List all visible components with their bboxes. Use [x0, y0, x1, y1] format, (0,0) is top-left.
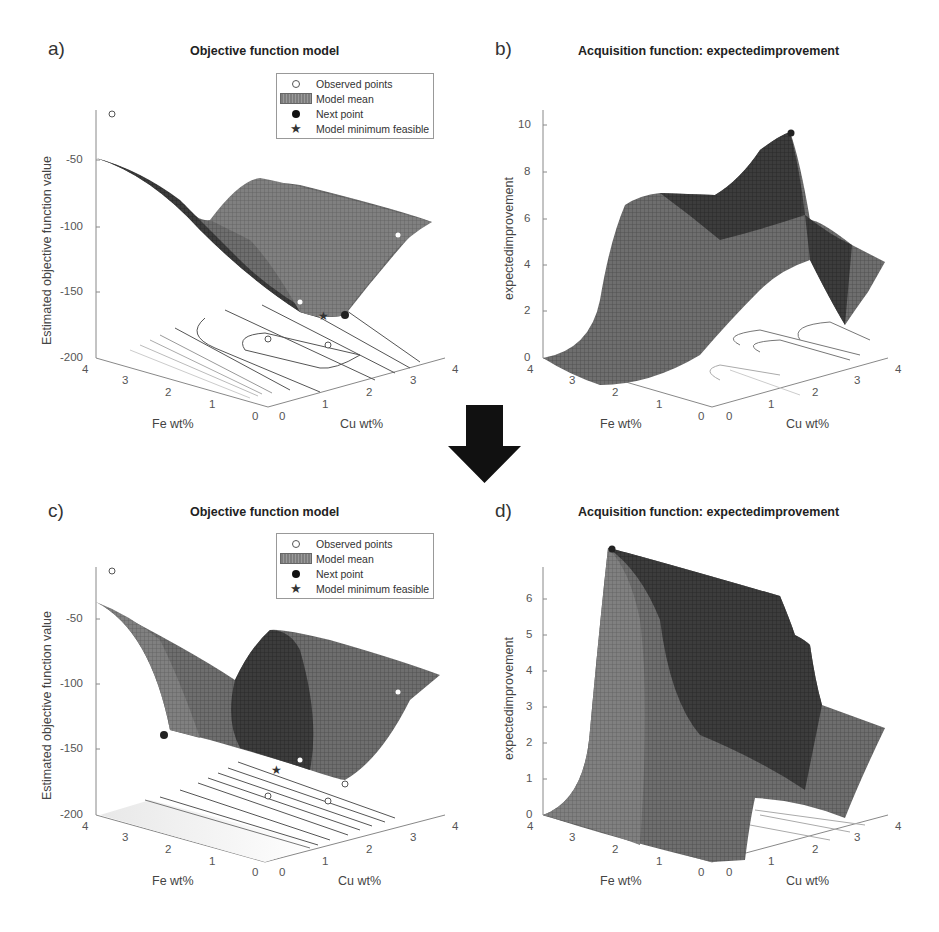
legend-item-model-minimum: Model minimum feasible: [316, 123, 429, 135]
z-tick: 8: [524, 165, 530, 177]
fe-tick: 0: [252, 410, 258, 422]
fe-tick: 2: [165, 843, 171, 855]
z-tick: -100: [60, 220, 83, 232]
z-tick: 6: [524, 212, 530, 224]
z-tick: 0: [524, 351, 530, 363]
cu-tick: 3: [854, 831, 860, 843]
panel-b-surface: [543, 130, 885, 386]
z-tick: 5: [526, 628, 532, 640]
z-tick: 0: [526, 808, 532, 820]
legend-item-observed: Observed points: [316, 538, 392, 550]
fe-tick: 2: [165, 386, 171, 398]
cu-tick: 4: [452, 363, 458, 375]
panel-a-label: a): [48, 38, 65, 60]
panel-b-title: Acquisition function: expectedimprovemen…: [578, 44, 839, 58]
next-point-icon: [292, 110, 300, 118]
panel-d-contours: [750, 810, 865, 840]
fe-axis-label: Fe wt%: [600, 874, 642, 888]
legend-item-model-mean: Model mean: [316, 553, 374, 565]
z-tick: 10: [518, 118, 531, 130]
svg-text:★: ★: [318, 309, 329, 323]
fe-tick: 1: [656, 855, 662, 867]
cu-tick: 4: [452, 820, 458, 832]
fe-tick: 2: [612, 843, 618, 855]
star-icon: ★: [290, 124, 302, 134]
fe-tick: 0: [698, 866, 704, 878]
panel-c-contours: [100, 762, 395, 862]
cu-tick: 2: [812, 843, 818, 855]
fe-axis-label: Fe wt%: [600, 417, 642, 431]
panel-a-title: Objective function model: [190, 44, 339, 58]
model-mean-swatch-icon: [280, 553, 312, 564]
cu-tick: 4: [895, 363, 901, 375]
z-tick: -50: [66, 153, 83, 165]
z-axis-label: Estimated objective function value: [40, 611, 54, 800]
legend-item-next-point: Next point: [316, 108, 363, 120]
z-tick: -50: [66, 612, 83, 624]
next-point-icon: [292, 570, 300, 578]
legend-item-observed: Observed points: [316, 78, 392, 90]
z-tick: 1: [526, 772, 532, 784]
fe-axis-label: Fe wt%: [152, 417, 194, 431]
cu-axis-label: Cu wt%: [340, 417, 383, 431]
z-tick: 3: [526, 700, 532, 712]
z-tick: -150: [60, 742, 83, 754]
cu-axis-label: Cu wt%: [338, 874, 381, 888]
cu-tick: 3: [854, 374, 860, 386]
z-axis-label: expectedimprovement: [502, 177, 516, 300]
cu-axis-label: Cu wt%: [786, 874, 829, 888]
legend-item-model-mean: Model mean: [316, 93, 374, 105]
fe-tick: 3: [569, 374, 575, 386]
cu-tick: 0: [279, 866, 285, 878]
fe-tick: 3: [122, 374, 128, 386]
cu-tick: 3: [410, 374, 416, 386]
cu-tick: 1: [768, 398, 774, 410]
legend-panel-a: Observed points Model mean Next point ★M…: [276, 73, 434, 139]
fe-tick: 4: [82, 363, 88, 375]
cu-tick: 1: [322, 398, 328, 410]
fe-tick: 4: [527, 820, 533, 832]
panel-c-label: c): [48, 500, 64, 522]
cu-tick: 0: [726, 410, 732, 422]
z-tick: 6: [526, 592, 532, 604]
cu-tick: 2: [366, 843, 372, 855]
down-arrow-icon: [448, 405, 521, 483]
fe-tick: 0: [698, 410, 704, 422]
fe-tick: 4: [527, 363, 533, 375]
cu-tick: 2: [366, 386, 372, 398]
cu-tick: 3: [410, 831, 416, 843]
z-axis-label: Estimated objective function value: [40, 156, 54, 345]
panel-d-label: d): [495, 500, 512, 522]
figure-graphics: ★: [0, 0, 939, 932]
fe-axis-label: Fe wt%: [152, 874, 194, 888]
fe-tick: 3: [569, 831, 575, 843]
panel-d-surface: [543, 546, 885, 863]
cu-tick: 2: [812, 386, 818, 398]
panel-c-surface: [96, 602, 440, 780]
z-tick: 4: [526, 664, 532, 676]
z-tick: 2: [524, 304, 530, 316]
cu-tick: 1: [322, 855, 328, 867]
z-tick: 4: [524, 258, 530, 270]
cu-tick: 0: [279, 410, 285, 422]
observed-points-icon: [292, 80, 300, 88]
legend-item-next-point: Next point: [316, 568, 363, 580]
legend-item-model-minimum: Model minimum feasible: [316, 583, 429, 595]
fe-tick: 3: [122, 831, 128, 843]
cu-tick: 0: [726, 866, 732, 878]
svg-text:★: ★: [271, 763, 282, 777]
fe-tick: 1: [656, 398, 662, 410]
star-icon: ★: [290, 584, 302, 594]
fe-tick: 1: [209, 855, 215, 867]
observed-points-icon: [292, 540, 300, 548]
z-tick: -200: [60, 808, 83, 820]
cu-axis-label: Cu wt%: [786, 417, 829, 431]
z-tick: -200: [60, 351, 83, 363]
panel-a-contours: [130, 292, 420, 398]
cu-tick: 1: [768, 855, 774, 867]
model-mean-swatch-icon: [280, 93, 312, 104]
panel-b-contours: [710, 322, 870, 395]
z-tick: -150: [60, 285, 83, 297]
fe-tick: 1: [209, 398, 215, 410]
panel-a-surface: [96, 158, 432, 318]
